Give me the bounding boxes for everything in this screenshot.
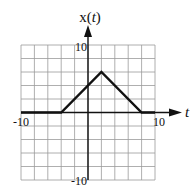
x-axis-arrow-icon [169,109,182,117]
y-axis-title: x(t) [79,9,101,26]
signal-chart: x(t) t -101010-10 [0,0,193,196]
x-axis-title: t [185,104,190,120]
y-tick-label: -10 [71,174,87,188]
x-tick-label: 10 [153,115,165,129]
y-tick-label: 10 [75,40,87,54]
y-axis-arrow-icon [84,25,92,37]
x-tick-label: -10 [13,115,29,129]
